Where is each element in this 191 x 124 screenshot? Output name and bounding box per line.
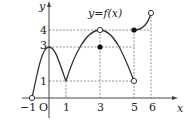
filled-point-3-3 bbox=[97, 44, 102, 49]
x-tick-6: 6 bbox=[149, 101, 156, 114]
open-point-3-4 bbox=[97, 27, 102, 32]
y-axis-arrow-icon bbox=[47, 1, 51, 7]
x-tick-1: 1 bbox=[63, 101, 70, 114]
y-axis-label: y bbox=[38, 0, 46, 13]
y-tick-3: 3 bbox=[40, 39, 47, 52]
x-tick-5: 5 bbox=[131, 101, 138, 114]
function-graph: y=f(x) y x O −1 1 3 5 6 1 3 4 bbox=[0, 0, 191, 124]
x-tick-neg1: −1 bbox=[20, 101, 36, 114]
y-tick-4: 4 bbox=[40, 24, 47, 37]
x-axis-arrow-icon bbox=[172, 96, 178, 100]
points bbox=[29, 10, 153, 100]
origin-label: O bbox=[39, 101, 48, 114]
filled-point-5-4 bbox=[131, 27, 136, 32]
open-point-5-1 bbox=[131, 78, 136, 83]
function-label: y=f(x) bbox=[87, 7, 122, 20]
curve bbox=[32, 13, 151, 98]
guide-lines bbox=[49, 13, 151, 98]
x-axis-label: x bbox=[177, 102, 184, 115]
x-tick-3: 3 bbox=[97, 101, 104, 114]
open-point-neg1-0 bbox=[29, 95, 34, 100]
open-point-6-5 bbox=[148, 10, 153, 15]
y-tick-1: 1 bbox=[40, 75, 47, 88]
